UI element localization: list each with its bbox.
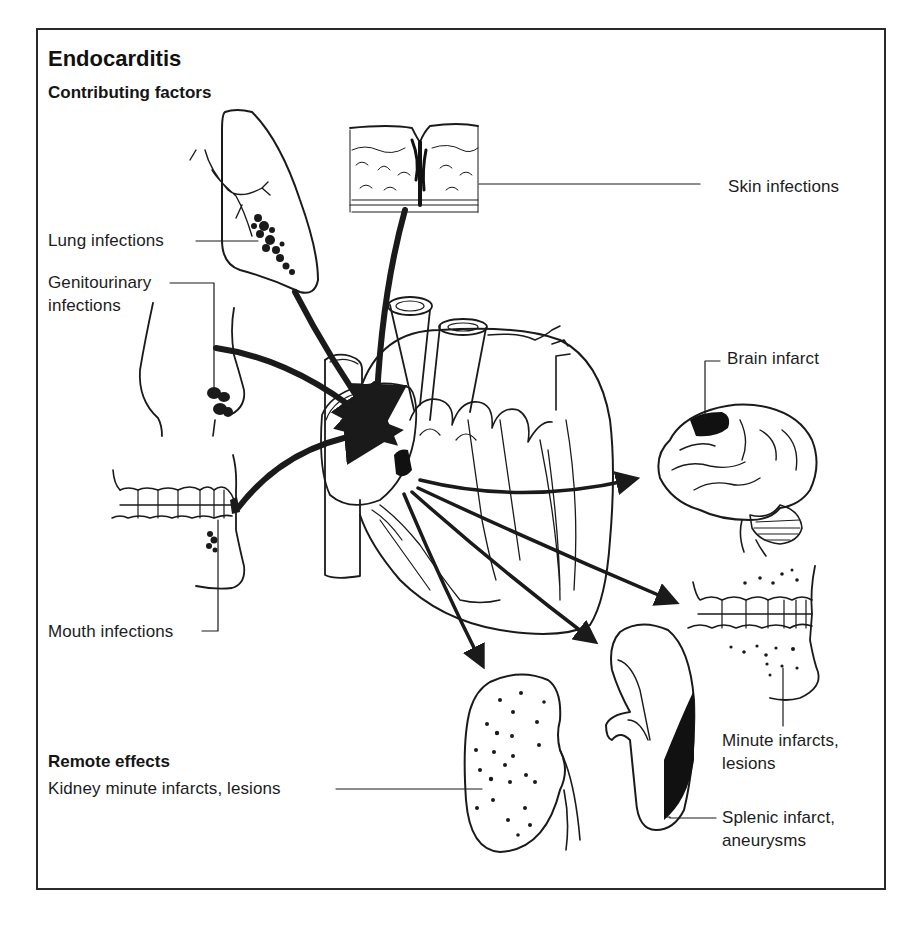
skin-section-drawing [350,124,478,212]
illustration [0,0,914,925]
torso-drawing [140,303,244,436]
spleen-drawing [606,624,694,830]
leader-splenic [666,817,716,818]
kidney-drawing [465,674,580,852]
face-drawing [688,566,819,700]
mouth-drawing [112,455,244,589]
incoming-arrows [216,210,405,508]
brain-drawing [658,404,816,556]
lung-drawing [190,110,318,293]
leader-genitourinary [170,283,214,388]
heart-drawing [321,297,613,634]
